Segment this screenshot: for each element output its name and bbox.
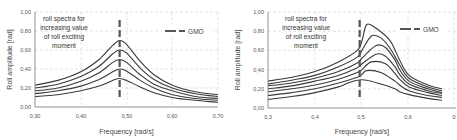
- annotation-line: moment: [52, 42, 76, 49]
- legend: GMO: [162, 26, 212, 37]
- x-axis-label: Frequency [rad/s]: [335, 128, 390, 136]
- labels: 0,000,200,400,600,801,000,30,40,50,60Fre…: [234, 9, 456, 136]
- y-tick-label: 0,60: [20, 47, 31, 53]
- x-tick-label: 0,40: [76, 113, 87, 119]
- x-tick-label: 0,3: [264, 114, 272, 120]
- x-tick-label: 0: [452, 114, 455, 120]
- y-tick-label: 0,20: [20, 85, 31, 91]
- annotation-line: of roll exciting: [44, 33, 85, 41]
- x-tick-label: 0,4: [311, 114, 319, 120]
- annotation-line: moment: [294, 42, 318, 49]
- annotation-line: increasing value: [282, 24, 330, 32]
- x-tick-label: 0,60: [167, 113, 178, 119]
- x-axis-label: Frequency [rad/s]: [99, 128, 154, 136]
- annotation-line: roll spectra for: [285, 15, 328, 23]
- chart-right: 0,000,200,400,600,801,000,30,40,50,60Fre…: [228, 0, 457, 140]
- y-tick-label: 1,00: [253, 9, 264, 15]
- x-tick-label: 0,6: [404, 114, 412, 120]
- annotation-line: increasing value: [40, 24, 88, 32]
- chart-left: 0,000,200,400,600,801,000,300,400,500,60…: [0, 0, 228, 140]
- y-tick-label: 0,80: [253, 28, 264, 34]
- y-tick-label: 0,00: [20, 104, 31, 110]
- x-tick-label: 0,5: [357, 114, 365, 120]
- y-tick-label: 0,40: [253, 67, 264, 73]
- y-tick-label: 1,00: [20, 9, 31, 15]
- y-tick-label: 0,20: [253, 86, 264, 92]
- y-tick-label: 0,00: [253, 105, 264, 111]
- y-tick-label: 0,40: [20, 66, 31, 72]
- y-tick-label: 0,60: [253, 47, 264, 53]
- x-tick-label: 0,30: [30, 113, 41, 119]
- x-tick-label: 0,70: [213, 113, 224, 119]
- chart-left-svg: 0,000,200,400,600,801,000,300,400,500,60…: [0, 0, 228, 140]
- x-tick-label: 0,50: [122, 113, 133, 119]
- annotation-line: roll spectra for: [43, 15, 86, 23]
- y-axis-label: Roll amplitude [rad]: [6, 29, 14, 89]
- legend: GMO: [397, 24, 447, 35]
- y-axis-label: Roll amplitude [rad]: [234, 30, 242, 90]
- y-tick-label: 0,80: [20, 28, 31, 34]
- annotation: roll spectra forincreasing valueof roll …: [282, 15, 330, 49]
- labels: 0,000,200,400,600,801,000,300,400,500,60…: [6, 9, 223, 136]
- annotation-line: of roll exciting: [286, 33, 327, 41]
- chart-right-svg: 0,000,200,400,600,801,000,30,40,50,60Fre…: [228, 0, 457, 140]
- legend-gmo-label: GMO: [423, 26, 439, 33]
- legend-gmo-label: GMO: [188, 28, 204, 35]
